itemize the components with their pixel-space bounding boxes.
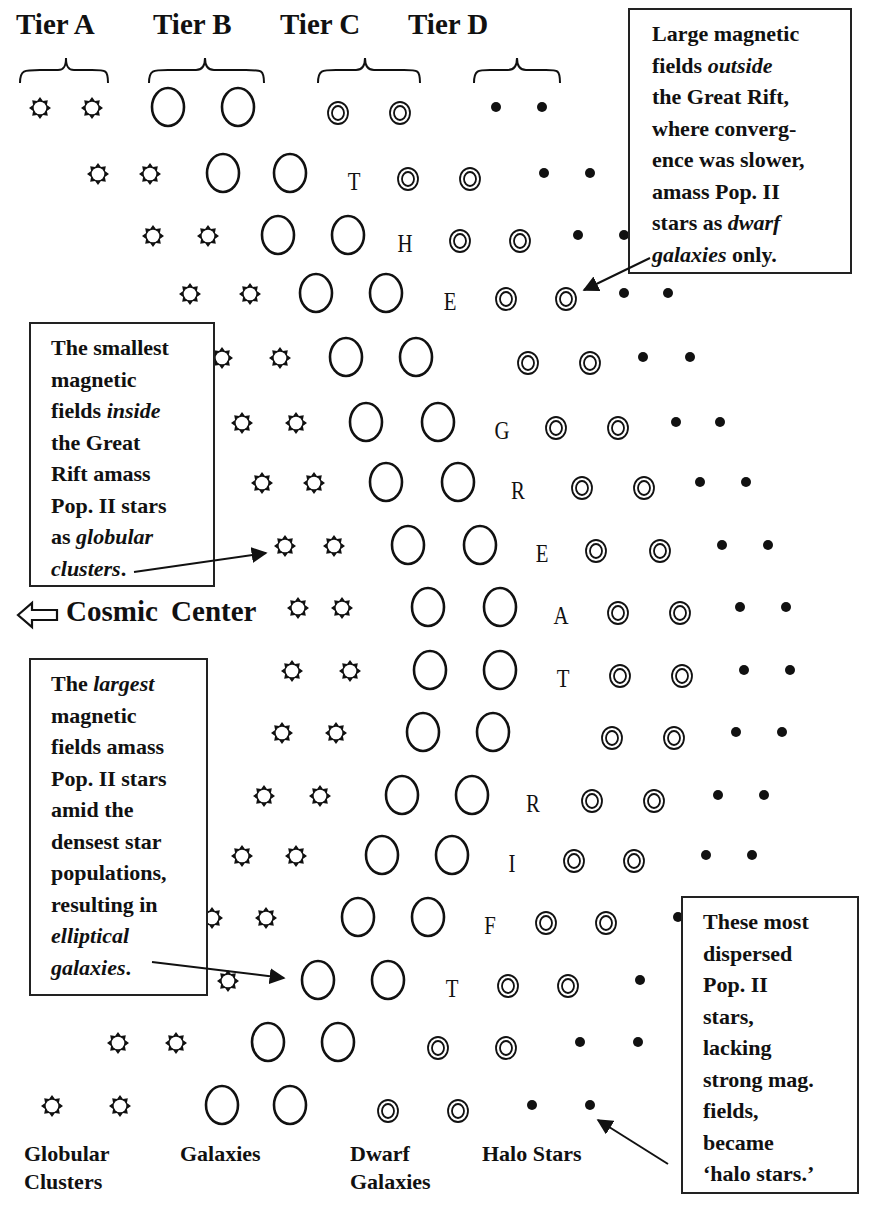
galaxy-ellipse-icon <box>149 85 187 133</box>
dwarf-galaxy-ring-icon <box>584 538 608 568</box>
annotation-line: Pop. II stars <box>51 763 206 795</box>
label-dwarf-galaxies: Dwarf Galaxies <box>350 1140 431 1196</box>
brace-tier-d <box>474 58 560 83</box>
globular-cluster-star-icon <box>337 658 363 688</box>
halo-star-dot-icon <box>634 972 646 990</box>
globular-cluster-star-icon <box>329 595 355 625</box>
dwarf-galaxy-ring-icon <box>570 475 594 505</box>
halo-star-dot-icon <box>637 349 649 367</box>
globular-cluster-star-icon <box>251 783 277 813</box>
annotation-line: where converg- <box>652 113 850 145</box>
dwarf-galaxy-ring-icon <box>606 600 630 630</box>
annotation-line: magnetic <box>51 700 206 732</box>
great-rift-letter: G <box>494 418 509 444</box>
globular-cluster-star-icon <box>140 223 166 253</box>
great-rift-letter: E <box>444 289 457 315</box>
galaxy-ellipse-icon <box>369 958 407 1006</box>
dwarf-galaxy-ring-icon <box>494 286 518 316</box>
globular-cluster-star-icon <box>107 1093 133 1123</box>
globular-cluster-star-icon <box>269 720 295 750</box>
globular-cluster-star-icon <box>237 281 263 311</box>
galaxy-ellipse-icon <box>297 271 335 319</box>
galaxy-ellipse-icon <box>299 958 337 1006</box>
brace-tier-b <box>149 58 264 83</box>
globular-cluster-star-icon <box>195 223 221 253</box>
annotation-line: resulting in <box>51 889 206 921</box>
annotation-line: dispersed <box>703 938 857 970</box>
globular-cluster-star-icon <box>137 161 163 191</box>
dwarf-galaxy-ring-icon <box>554 286 578 316</box>
galaxy-ellipse-icon <box>411 648 449 696</box>
halo-star-dot-icon <box>762 537 774 555</box>
great-rift-letter: R <box>511 478 525 504</box>
dwarf-galaxy-ring-icon <box>376 1098 400 1128</box>
halo-star-dot-icon <box>784 662 796 680</box>
globular-cluster-star-icon <box>283 410 309 440</box>
annotation-line: strong mag. <box>703 1064 857 1096</box>
galaxy-ellipse-icon <box>453 773 491 821</box>
galaxy-ellipse-icon <box>383 773 421 821</box>
globular-cluster-star-icon <box>283 843 309 873</box>
dwarf-galaxy-ring-icon <box>534 910 558 940</box>
globular-cluster-star-icon <box>229 410 255 440</box>
halo-stars-annotation: These mostdispersedPop. IIstars,lackings… <box>681 896 859 1194</box>
globular-cluster-star-icon <box>39 1093 65 1123</box>
galaxy-ellipse-icon <box>249 1020 287 1068</box>
halo-star-dot-icon <box>740 474 752 492</box>
globular-cluster-star-icon <box>301 470 327 500</box>
halo-star-dot-icon <box>758 787 770 805</box>
galaxy-ellipse-icon <box>367 460 405 508</box>
annotation-line: fields amass <box>51 731 206 763</box>
galaxy-ellipse-icon <box>271 1083 309 1131</box>
annotation-line: became <box>703 1127 857 1159</box>
galaxy-ellipse-icon <box>481 585 519 633</box>
globular-cluster-star-icon <box>249 470 275 500</box>
globular-cluster-star-icon <box>163 1030 189 1060</box>
label-galaxies: Galaxies <box>180 1140 261 1168</box>
halo-star-dot-icon <box>684 349 696 367</box>
globular-cluster-star-icon <box>272 533 298 563</box>
annotation-line: The largest <box>51 668 206 700</box>
galaxy-ellipse-icon <box>204 151 242 199</box>
annotation-line: stars, <box>703 1001 857 1033</box>
galaxy-ellipse-icon <box>271 151 309 199</box>
dwarf-galaxy-ring-icon <box>496 973 520 1003</box>
dwarf-galaxy-ring-icon <box>580 788 604 818</box>
dwarf-galaxy-ring-icon <box>388 100 412 130</box>
galaxy-ellipse-icon <box>339 895 377 943</box>
halo-star-dot-icon <box>700 847 712 865</box>
globular-cluster-star-icon <box>253 905 279 935</box>
globular-cluster-star-icon <box>79 95 105 125</box>
annotation-line: lacking <box>703 1032 857 1064</box>
galaxy-ellipse-icon <box>461 523 499 571</box>
globular-cluster-star-icon <box>321 533 347 563</box>
dwarf-galaxy-ring-icon <box>594 910 618 940</box>
annotation-line: Pop. II stars <box>51 490 213 522</box>
dwarf-galaxy-ring-icon <box>544 415 568 445</box>
halo-star-dot-icon <box>574 1034 586 1052</box>
dwarf-galaxy-ring-icon <box>632 475 656 505</box>
globular-clusters-annotation: The smallestmagneticfields insidethe Gre… <box>29 322 215 587</box>
halo-star-dot-icon <box>738 662 750 680</box>
label-globular-clusters: Globular Clusters <box>24 1140 110 1196</box>
halo-star-dot-icon <box>584 165 596 183</box>
annotation-line: stars as dwarf <box>652 207 850 239</box>
great-rift-letter: T <box>348 169 361 195</box>
great-rift-letter: T <box>446 976 459 1002</box>
halo-star-dot-icon <box>536 99 548 117</box>
galaxy-ellipse-icon <box>389 523 427 571</box>
great-rift-letter: R <box>526 791 540 817</box>
galaxy-ellipse-icon <box>397 335 435 383</box>
dwarf-galaxy-ring-icon <box>556 973 580 1003</box>
annotation-line: amass Pop. II <box>652 176 850 208</box>
brace-tier-a <box>20 58 108 83</box>
globular-cluster-star-icon <box>307 783 333 813</box>
globular-cluster-star-icon <box>267 345 293 375</box>
annotation-line: Large magnetic <box>652 18 850 50</box>
dwarf-galaxy-ring-icon <box>508 228 532 258</box>
globular-cluster-star-icon <box>215 968 241 998</box>
dwarf-galaxy-ring-icon <box>426 1035 450 1065</box>
dwarf-galaxy-ring-icon <box>608 663 632 693</box>
great-rift-letter: F <box>484 913 496 939</box>
annotation-line: populations, <box>51 857 206 889</box>
